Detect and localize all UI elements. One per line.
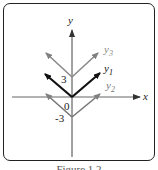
curve-label-y2: y2 bbox=[105, 79, 115, 94]
x-axis-label: x bbox=[142, 90, 148, 102]
y-axis-label: y bbox=[67, 14, 73, 26]
tick-label-origin: 0 bbox=[64, 100, 70, 112]
tick-label-3: 3 bbox=[61, 73, 67, 85]
tick-label-neg3: -3 bbox=[55, 112, 65, 124]
curve-label-y3: y3 bbox=[103, 43, 113, 58]
graph-canvas: y x 3 0 -3 y3 y1 y2 bbox=[0, 0, 158, 170]
curve-label-y1: y1 bbox=[103, 62, 113, 77]
figure-caption: Figure 1.2 bbox=[0, 163, 158, 170]
